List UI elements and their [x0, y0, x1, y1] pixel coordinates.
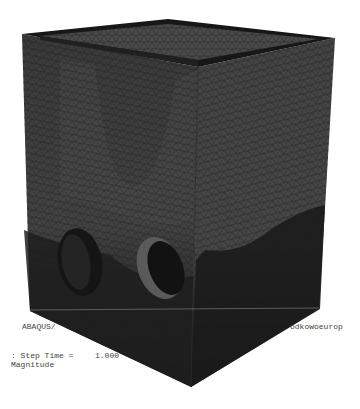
left-face — [22, 34, 198, 387]
right-face — [191, 38, 335, 387]
step-time-value: 1.000 — [95, 351, 119, 360]
title-right: odkowoeurop — [290, 322, 343, 331]
title-left: ABAQUS/ — [22, 322, 56, 331]
fea-box-render — [0, 0, 360, 409]
model-viewport[interactable]: ABAQUS/ odkowoeurop : Step Time = 1.000 … — [0, 0, 360, 409]
variable-label: Magnitude — [11, 360, 54, 369]
step-time-label: : Step Time = — [11, 351, 73, 360]
